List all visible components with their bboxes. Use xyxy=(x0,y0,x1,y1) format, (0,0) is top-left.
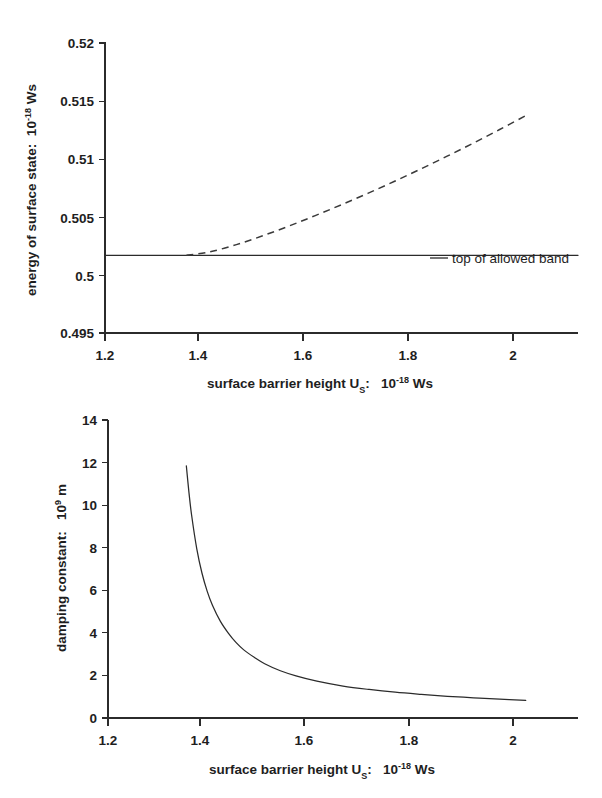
bottom-y-ticklabel-5: 10 xyxy=(82,498,97,513)
bottom-y-axis-title-unit: m xyxy=(54,484,69,496)
bottom-x-axis-title-text: surface barrier height U xyxy=(209,762,361,777)
bottom-y-axis-title: damping constant: 109 m xyxy=(53,484,69,652)
chart-bottom-svg: 0 2 4 6 8 10 12 14 1.2 1.4 1.6 1.8 2 sur… xyxy=(0,398,602,798)
series-damping-constant xyxy=(186,466,525,701)
bottom-y-ticklabel-4: 8 xyxy=(89,541,97,556)
top-x-ticklabel-3: 1.8 xyxy=(399,348,418,363)
chart-damping-constant: 0 2 4 6 8 10 12 14 1.2 1.4 1.6 1.8 2 sur… xyxy=(0,398,602,798)
top-x-axis-title: surface barrier height US: 10-18 Ws xyxy=(207,375,433,395)
top-y-ticklabel-2: 0.505 xyxy=(60,211,94,226)
figure-container: 0.495 0.5 0.505 0.51 0.515 0.52 1.2 1.4 … xyxy=(0,0,602,798)
top-x-ticklabel-2: 1.6 xyxy=(294,348,313,363)
top-y-ticklabel-0: 0.495 xyxy=(60,326,94,341)
bottom-x-axis-title-exp: -18 xyxy=(398,761,411,771)
bottom-x-ticklabel-4: 2 xyxy=(509,733,517,748)
bottom-x-axis-title-factor: 10 xyxy=(383,762,398,777)
bottom-y-ticklabel-2: 4 xyxy=(89,626,97,641)
bottom-y-ticklabel-7: 14 xyxy=(82,413,98,428)
bottom-x-axis-title-unit: Ws xyxy=(415,762,435,777)
top-x-axis-title-unit: Ws xyxy=(413,376,433,391)
bottom-x-ticklabel-0: 1.2 xyxy=(99,733,118,748)
top-y-ticklabel-5: 0.52 xyxy=(68,36,94,51)
bottom-y-ticklabel-6: 12 xyxy=(82,456,97,471)
bottom-y-ticklabel-0: 0 xyxy=(89,711,97,726)
top-x-axis-title-factor: 10 xyxy=(381,376,396,391)
chart-top-svg: 0.495 0.5 0.505 0.51 0.515 0.52 1.2 1.4 … xyxy=(0,0,602,400)
top-y-axis-title-text: energy of surface state: xyxy=(24,144,39,296)
top-x-ticklabel-1: 1.4 xyxy=(189,348,208,363)
top-y-axis-title-exp: -18 xyxy=(23,108,33,121)
bottom-x-ticklabel-2: 1.6 xyxy=(295,733,314,748)
chart-energy-of-surface-state: 0.495 0.5 0.505 0.51 0.515 0.52 1.2 1.4 … xyxy=(0,0,602,400)
top-x-axis-title-text: surface barrier height U xyxy=(207,376,359,391)
bottom-x-axis-title: surface barrier height US: 10-18 Ws xyxy=(209,761,435,781)
top-y-axis-title-factor: 10 xyxy=(24,121,39,136)
bottom-y-ticklabel-1: 2 xyxy=(89,668,97,683)
bottom-y-axis-title-text: damping constant: xyxy=(54,531,69,652)
top-y-axis-title-unit: Ws xyxy=(24,84,39,104)
bottom-y-axis-title-factor: 10 xyxy=(54,505,69,520)
top-y-ticklabel-1: 0.5 xyxy=(75,269,94,284)
bottom-x-ticklabel-3: 1.8 xyxy=(400,733,419,748)
top-x-ticklabel-4: 2 xyxy=(509,348,517,363)
legend-label-top-of-allowed-band: top of allowed band xyxy=(452,251,569,266)
bottom-y-ticklabel-3: 6 xyxy=(89,583,97,598)
top-x-ticklabel-0: 1.2 xyxy=(96,348,115,363)
top-y-ticklabel-4: 0.515 xyxy=(60,94,94,109)
top-x-axis-title-exp: -18 xyxy=(396,375,409,385)
top-y-ticklabel-3: 0.51 xyxy=(68,152,95,167)
series-surface-state-energy xyxy=(186,116,525,255)
top-y-axis-title: energy of surface state: 10-18 Ws xyxy=(23,84,39,296)
bottom-x-ticklabel-1: 1.4 xyxy=(191,733,210,748)
